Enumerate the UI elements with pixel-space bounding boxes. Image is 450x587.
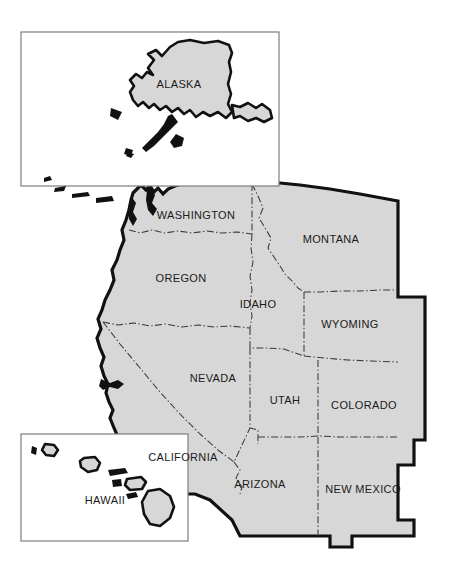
western-us-map: ALASKA HAWAII WASHINGTON OREGON IDAHO MO…: [0, 0, 450, 587]
label-washington: WASHINGTON: [157, 209, 236, 221]
hawaii-maui: [125, 477, 146, 490]
alaska-aleutian-5: [96, 196, 114, 203]
map-container: ALASKA HAWAII WASHINGTON OREGON IDAHO MO…: [0, 0, 450, 587]
alaska-aleutian-4: [72, 192, 90, 198]
label-utah: UTAH: [270, 394, 301, 406]
hawaii-oahu: [80, 457, 100, 472]
label-new-mexico: NEW MEXICO: [325, 483, 401, 495]
label-nevada: NEVADA: [190, 372, 237, 384]
hawaii-lanai: [112, 479, 122, 487]
hawaii-kauai: [42, 444, 58, 456]
alaska-label: ALASKA: [157, 78, 202, 90]
label-wyoming: WYOMING: [321, 318, 378, 330]
label-idaho: IDAHO: [240, 298, 277, 310]
label-montana: MONTANA: [303, 233, 360, 245]
label-colorado: COLORADO: [331, 399, 397, 411]
label-oregon: OREGON: [156, 272, 207, 284]
alaska-inset: ALASKA: [21, 32, 279, 203]
alaska-aleutian-3: [54, 186, 66, 192]
hawaii-label: HAWAII: [85, 494, 125, 506]
label-california: CALIFORNIA: [148, 451, 218, 463]
label-arizona: ARIZONA: [234, 478, 286, 490]
